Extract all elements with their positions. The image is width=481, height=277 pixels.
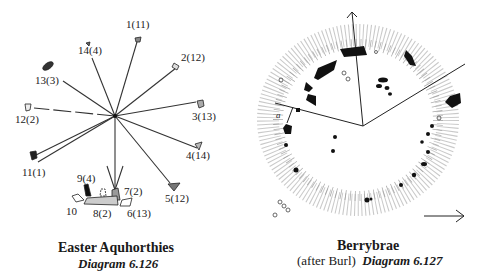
- stone-label-11: 11(1): [22, 167, 45, 178]
- stone-label-4: 4(14): [186, 150, 210, 161]
- stone-letter-label: a: [276, 110, 281, 121]
- stone-label-6: 6(13): [127, 208, 151, 219]
- stone-label-3: 3(13): [192, 111, 216, 122]
- stone-label-13: 13(3): [35, 75, 59, 86]
- stone-label-9: 9(4): [77, 173, 95, 184]
- diagram-title: Berrybrae: [337, 238, 399, 253]
- stone-label-7: 7(2): [124, 186, 142, 197]
- stone-label-5: 5(12): [165, 193, 189, 204]
- diagram-attribution: (after Burl): [297, 253, 356, 268]
- easter-aquhorthies-plan: [0, 0, 240, 277]
- stone-label-10: 10: [66, 206, 77, 217]
- easter-aquhorthies-panel: 1(11) 2(12) 3(13) 4(14) 5(12) 6(13) 7(2)…: [0, 0, 240, 277]
- stone-label-14: 14(4): [78, 45, 102, 56]
- stone-label-2: 2(12): [181, 52, 205, 63]
- diagram-number: Diagram 6.126: [78, 257, 158, 271]
- diagram-subtitle: (after Burl) Diagram 6.127: [297, 254, 443, 268]
- diagram-title: Easter Aquhorthies: [58, 240, 174, 255]
- berrybrae-plan: [240, 0, 481, 277]
- berrybrae-panel: a Berrybrae (after Burl) Diagram 6.127: [240, 0, 481, 277]
- stone-label-12: 12(2): [15, 114, 39, 125]
- stone-label-8: 8(2): [93, 208, 111, 219]
- diagram-number: Diagram 6.127: [362, 253, 442, 268]
- stone-label-1: 1(11): [126, 19, 149, 30]
